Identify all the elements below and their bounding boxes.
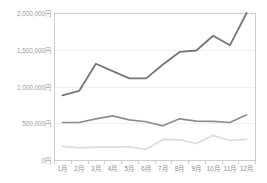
- x-axis-tick-label: 8月: [175, 165, 185, 173]
- series-line-series-3: [62, 135, 246, 149]
- y-axis-tick-label: 2,000,000円: [17, 10, 51, 18]
- x-axis-tick-label: 3月: [91, 165, 101, 173]
- y-axis-tick-label: 1,000,000円: [17, 84, 51, 92]
- x-axis-tick-label: 5月: [125, 165, 135, 173]
- series-line-series-2: [62, 115, 246, 126]
- series-line-series-1: [62, 13, 246, 95]
- y-axis-tick-label: 500,000円: [22, 120, 51, 128]
- x-axis-tick-label: 7月: [158, 165, 168, 173]
- y-axis-tick-label: 1,500,000円: [17, 47, 51, 55]
- y-axis-tick-label: 0円: [41, 157, 51, 165]
- gridlines-group: [54, 14, 255, 124]
- x-axis-tick-label: 9月: [192, 165, 202, 173]
- x-axis-tick-label: 10月: [207, 165, 220, 173]
- x-axis-tick-label: 1月: [58, 165, 68, 173]
- y-axis-tick-labels: 0円500,000円1,000,000円1,500,000円2,000,000円: [17, 10, 51, 165]
- chart-container: 0円500,000円1,000,000円1,500,000円2,000,000円…: [0, 0, 267, 183]
- line-chart: 0円500,000円1,000,000円1,500,000円2,000,000円…: [0, 0, 267, 183]
- x-axis-tick-label: 6月: [141, 165, 151, 173]
- x-axis-tick-label: 2月: [74, 165, 84, 173]
- x-axis-tick-label: 12月: [240, 165, 253, 173]
- x-axis-tick-label: 4月: [108, 165, 118, 173]
- data-series-group: [62, 13, 246, 149]
- x-axis-tick-labels: 1月2月3月4月5月6月7月8月9月10月11月12月: [58, 165, 254, 173]
- x-axis-tick-label: 11月: [224, 165, 237, 173]
